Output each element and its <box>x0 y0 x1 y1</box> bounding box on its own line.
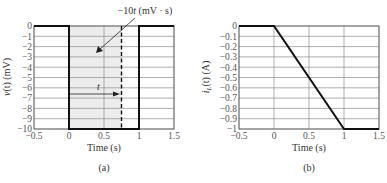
y-tick-label: −0.2 <box>220 42 237 52</box>
y-tick-labels: 0−0.1−0.2−0.3−0.4−0.5−0.6−0.7−0.8−0.9−1 <box>220 21 237 134</box>
y-tick-labels: 0−1−2−3−4−5−6−7−8−9−10 <box>17 21 32 134</box>
y-axis-label: iL(t) (A) <box>200 61 213 94</box>
caption-b: (b) <box>303 162 315 174</box>
x-tick-labels: −0.500.511.5 <box>230 131 385 141</box>
y-tick-label: −0.8 <box>220 104 237 114</box>
x-tick-label: 0.5 <box>98 131 110 141</box>
y-tick-label: −1 <box>22 32 32 42</box>
y-tick-label: −0.9 <box>220 114 237 124</box>
y-tick-label: −2 <box>22 42 32 52</box>
x-axis-label: Time (s) <box>292 142 326 154</box>
x-tick-label: 0 <box>272 131 277 141</box>
y-tick-label: −0.4 <box>220 63 237 73</box>
gridlines <box>34 26 174 129</box>
x-tick-label: 1 <box>137 131 142 141</box>
y-tick-label: −7 <box>22 93 32 103</box>
y-axis-label: v(t) (mV) <box>1 58 13 96</box>
x-tick-labels: −0.500.511.5 <box>25 131 180 141</box>
x-axis-label: Time (s) <box>87 142 121 154</box>
caption-a: (a) <box>98 162 109 174</box>
x-tick-label: 1 <box>342 131 347 141</box>
x-tick-label: −0.5 <box>25 131 42 141</box>
y-tick-label: −6 <box>22 83 32 93</box>
figure: 0−1−2−3−4−5−6−7−8−9−10 −0.500.511.5 v(t)… <box>0 0 387 183</box>
y-tick-label: −3 <box>22 52 32 62</box>
x-tick-label: 0.5 <box>303 131 315 141</box>
y-tick-label: −0.3 <box>220 52 237 62</box>
y-tick-label: −0.6 <box>220 83 237 93</box>
y-tick-label: −4 <box>22 63 32 73</box>
y-tick-label: −8 <box>22 104 32 114</box>
x-tick-label: 0 <box>67 131 72 141</box>
plot-b: 0−0.1−0.2−0.3−0.4−0.5−0.6−0.7−0.8−0.9−1 … <box>200 21 385 174</box>
y-tick-label: −0.7 <box>220 93 237 103</box>
t-label: t <box>97 81 100 92</box>
y-tick-label: −0.1 <box>220 32 237 42</box>
y-tick-label: −9 <box>22 114 32 124</box>
y-tick-label: −5 <box>22 73 32 83</box>
plot-a: 0−1−2−3−4−5−6−7−8−9−10 −0.500.511.5 v(t)… <box>1 5 180 174</box>
integral-annotation: −10t (mV · s) <box>118 5 173 17</box>
x-tick-label: 1.5 <box>168 131 180 141</box>
y-tick-label: 0 <box>27 21 32 31</box>
y-tick-label: 0 <box>232 21 237 31</box>
x-tick-label: 1.5 <box>373 131 385 141</box>
x-tick-label: −0.5 <box>230 131 247 141</box>
y-tick-label: −0.5 <box>220 73 237 83</box>
